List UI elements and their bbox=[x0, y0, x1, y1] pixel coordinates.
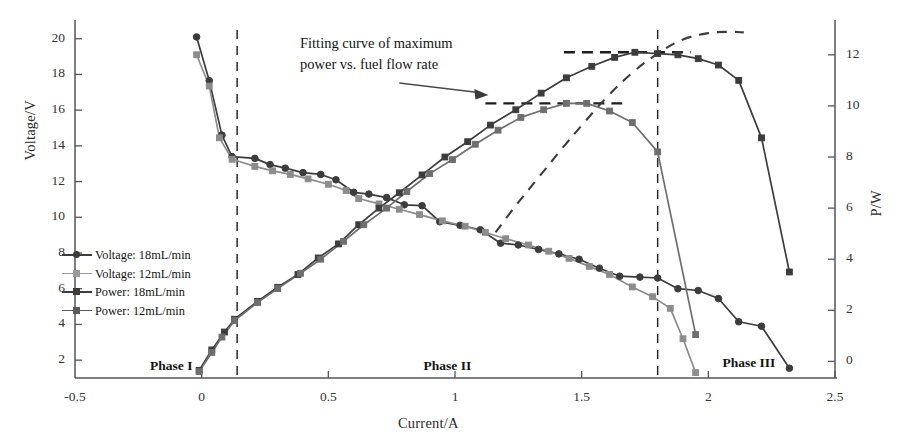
data-point-marker bbox=[695, 287, 702, 294]
legend-item-0[interactable]: Voltage: 18mL/min bbox=[62, 246, 191, 265]
y-tick-label-left: 8 bbox=[35, 244, 65, 260]
data-point-marker bbox=[584, 100, 590, 106]
x-tick-label: -0.5 bbox=[55, 389, 95, 405]
data-point-marker bbox=[566, 255, 572, 261]
legend-label: Voltage: 18mL/min bbox=[95, 249, 191, 261]
data-point-marker bbox=[667, 305, 673, 311]
data-point-marker bbox=[376, 205, 382, 211]
y-tick-label-right: 8 bbox=[846, 148, 876, 164]
data-point-marker bbox=[417, 212, 423, 218]
data-point-marker bbox=[194, 52, 200, 58]
data-point-marker bbox=[442, 154, 448, 160]
data-point-marker bbox=[282, 165, 289, 172]
data-point-marker bbox=[637, 274, 644, 281]
phase-divider-lines bbox=[237, 30, 658, 376]
data-point-marker bbox=[526, 242, 532, 248]
data-point-marker bbox=[300, 169, 307, 176]
data-point-marker bbox=[404, 189, 410, 195]
y-tick-label-right: 4 bbox=[846, 250, 876, 266]
y-tick-label-right: 10 bbox=[846, 97, 876, 113]
legend-item-2[interactable]: Power: 18mL/min bbox=[62, 283, 191, 302]
data-point-marker bbox=[515, 242, 522, 249]
data-point-marker bbox=[735, 318, 742, 325]
y-tick-label-right: 6 bbox=[846, 199, 876, 215]
data-point-marker bbox=[318, 256, 324, 262]
annotation-line-2: power vs. fuel flow rate bbox=[300, 54, 453, 75]
data-point-marker bbox=[419, 172, 425, 178]
annotation-line-1: Fitting curve of maximum bbox=[300, 33, 453, 54]
data-point-marker bbox=[488, 122, 494, 128]
data-point-marker bbox=[361, 222, 367, 228]
data-point-marker bbox=[556, 251, 563, 258]
legend-item-1[interactable]: Voltage: 12mL/min bbox=[62, 265, 191, 284]
legend-marker-icon bbox=[62, 249, 92, 261]
data-point-marker bbox=[655, 51, 661, 57]
data-point-marker bbox=[629, 120, 635, 126]
data-point-marker bbox=[680, 336, 686, 342]
data-point-marker bbox=[287, 172, 293, 178]
phase-label-three: Phase III bbox=[722, 355, 775, 371]
legend-marker-icon bbox=[62, 268, 92, 280]
phase-label-two: Phase II bbox=[424, 358, 472, 374]
data-point-marker bbox=[396, 206, 402, 212]
data-point-marker bbox=[325, 181, 331, 187]
data-point-marker bbox=[538, 90, 544, 96]
chart-figure: Voltage/V P/W Current/A 2468101214161820… bbox=[0, 0, 897, 443]
data-point-marker bbox=[589, 63, 595, 69]
data-point-marker bbox=[193, 34, 200, 41]
data-point-marker bbox=[495, 127, 501, 133]
data-point-marker bbox=[275, 286, 281, 292]
data-point-marker bbox=[298, 270, 304, 276]
data-point-marker bbox=[267, 161, 274, 168]
data-point-marker bbox=[206, 83, 212, 89]
data-point-marker bbox=[341, 238, 347, 244]
data-point-marker bbox=[219, 334, 225, 340]
data-point-marker bbox=[786, 365, 793, 372]
legend-label: Power: 18mL/min bbox=[95, 286, 185, 298]
data-point-marker bbox=[252, 155, 259, 162]
data-point-marker bbox=[535, 246, 542, 253]
x-tick-label: 2 bbox=[688, 389, 728, 405]
data-point-marker bbox=[629, 284, 635, 290]
axis-lines bbox=[75, 20, 837, 378]
y-tick-label-left: 20 bbox=[35, 30, 65, 46]
data-point-marker bbox=[715, 295, 722, 302]
data-point-marker bbox=[693, 370, 699, 376]
data-point-marker bbox=[564, 75, 570, 81]
data-point-marker bbox=[693, 332, 699, 338]
data-point-marker bbox=[616, 273, 623, 280]
fitting-curve-annotation: Fitting curve of maximum power vs. fuel … bbox=[300, 33, 453, 74]
data-point-marker bbox=[650, 294, 656, 300]
peak-level-lines bbox=[485, 52, 690, 103]
data-point-marker bbox=[546, 248, 552, 254]
y-tick-label-left: 14 bbox=[35, 137, 65, 153]
data-point-marker bbox=[396, 190, 402, 196]
data-point-marker bbox=[612, 54, 618, 60]
data-point-marker bbox=[439, 218, 445, 224]
data-point-marker bbox=[655, 149, 661, 155]
data-point-marker bbox=[607, 272, 613, 278]
data-point-marker bbox=[758, 323, 765, 330]
data-point-marker bbox=[695, 56, 701, 62]
data-point-marker bbox=[483, 230, 489, 236]
data-point-marker bbox=[217, 135, 223, 141]
data-point-marker bbox=[675, 285, 682, 292]
x-tick-label: 1 bbox=[435, 389, 475, 405]
data-point-marker bbox=[196, 369, 202, 375]
data-point-marker bbox=[450, 157, 456, 163]
data-point-marker bbox=[759, 135, 765, 141]
data-point-marker bbox=[356, 196, 362, 202]
y-tick-label-left: 10 bbox=[35, 208, 65, 224]
legend-label: Voltage: 12mL/min bbox=[95, 268, 191, 280]
data-point-marker bbox=[384, 205, 390, 211]
legend-item-3[interactable]: Power: 12mL/min bbox=[62, 302, 191, 321]
data-point-marker bbox=[576, 256, 583, 263]
data-point-marker bbox=[465, 139, 471, 145]
data-point-marker bbox=[518, 115, 524, 121]
data-point-marker bbox=[716, 62, 722, 68]
data-point-marker bbox=[513, 107, 519, 113]
data-point-marker bbox=[383, 194, 390, 201]
data-point-marker bbox=[596, 265, 603, 272]
y-tick-label-left: 4 bbox=[35, 315, 65, 331]
data-point-marker bbox=[419, 202, 426, 209]
